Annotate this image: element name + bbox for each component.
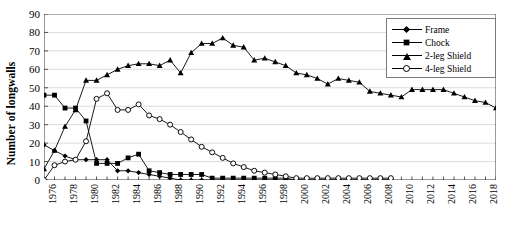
y-tick-label: 90 bbox=[29, 9, 40, 20]
y-tick-label: 40 bbox=[29, 101, 40, 112]
y-tick-label: 60 bbox=[29, 64, 40, 75]
x-tick-label: 1996 bbox=[258, 184, 268, 204]
legend-label: Chock bbox=[422, 38, 450, 48]
x-tick-label: 1984 bbox=[132, 184, 142, 204]
legend-item-4-leg-shield: 4-leg Shield bbox=[392, 62, 490, 75]
y-tick-label: 80 bbox=[29, 27, 40, 38]
legend-label: 4-leg Shield bbox=[422, 64, 471, 74]
x-tick-label: 2004 bbox=[342, 184, 352, 204]
x-tick-label: 2010 bbox=[405, 184, 415, 204]
legend-label: Frame bbox=[422, 25, 449, 35]
y-axis-tick-labels: 0102030405060708090 bbox=[0, 14, 40, 180]
y-tick-label: 0 bbox=[35, 175, 41, 186]
x-tick-label: 2000 bbox=[300, 184, 310, 204]
x-tick-label: 1990 bbox=[195, 184, 205, 204]
y-tick-label: 70 bbox=[29, 45, 40, 56]
x-tick-label: 2018 bbox=[489, 184, 499, 204]
x-tick-label: 1986 bbox=[153, 184, 163, 204]
chart-legend: Frame Chock 2-leg Shield 4-leg Shield bbox=[386, 18, 496, 78]
legend-item-2-leg-shield: 2-leg Shield bbox=[392, 49, 490, 62]
x-tick-label: 2012 bbox=[426, 184, 436, 204]
y-tick-label: 20 bbox=[29, 138, 40, 149]
x-axis-tick-labels: 1976197819801982198419861988199019921994… bbox=[44, 184, 496, 227]
y-tick-label: 50 bbox=[29, 82, 40, 93]
x-tick-label: 2008 bbox=[384, 184, 394, 204]
x-tick-label: 2014 bbox=[447, 184, 457, 204]
x-tick-label: 1982 bbox=[111, 184, 121, 204]
x-tick-label: 2002 bbox=[321, 184, 331, 204]
x-tick-label: 1998 bbox=[279, 184, 289, 204]
x-tick-label: 1980 bbox=[90, 184, 100, 204]
x-tick-label: 1988 bbox=[174, 184, 184, 204]
legend-marker-diamond-icon bbox=[392, 24, 422, 36]
x-tick-label: 2006 bbox=[363, 184, 373, 204]
y-tick-label: 10 bbox=[29, 156, 40, 167]
x-tick-label: 2016 bbox=[468, 184, 478, 204]
y-tick-label: 30 bbox=[29, 119, 40, 130]
legend-item-frame: Frame bbox=[392, 23, 490, 36]
longwall-support-type-chart: Number of longwalls 0102030405060708090 … bbox=[0, 0, 517, 227]
legend-item-chock: Chock bbox=[392, 36, 490, 49]
legend-label: 2-leg Shield bbox=[422, 51, 471, 61]
x-tick-label: 1976 bbox=[48, 184, 58, 204]
x-tick-label: 1978 bbox=[69, 184, 79, 204]
legend-marker-triangle-icon bbox=[392, 50, 422, 62]
x-tick-label: 1994 bbox=[237, 184, 247, 204]
legend-marker-circle-open-icon bbox=[392, 63, 422, 75]
legend-marker-square-icon bbox=[392, 37, 422, 49]
x-tick-label: 1992 bbox=[216, 184, 226, 204]
